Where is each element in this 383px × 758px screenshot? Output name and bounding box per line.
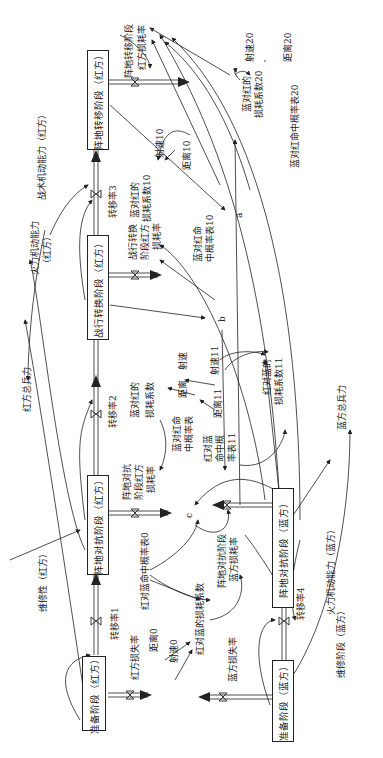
label-convert-loss-2: 阶段红方 [140, 224, 151, 260]
label-rate4: 转移率4 [296, 587, 307, 620]
label-fire-mobility-red-1: 火力机动能力 [30, 221, 41, 275]
label-coef-red-blue0: 红对蓝的损耗系数 [195, 583, 206, 655]
label-hit-red-blue11-2: 命中概 [215, 435, 226, 462]
label-speed: 射速 [178, 352, 189, 370]
label-confront-blue-loss-1: 阵地对抗阶段 [217, 534, 228, 588]
label-dist0: 距离0 [149, 628, 160, 652]
label-blue-total: 蓝方总兵力 [337, 385, 348, 430]
label-confront-red-loss-3: 损耗率 [146, 466, 157, 493]
label-maint-blue: 维修阶段（蓝方） [336, 606, 347, 678]
label-convert-loss-3: 损耗率 [152, 223, 163, 250]
label-coef-blue-red-2: 损耗系数 [145, 382, 156, 418]
stock-blue-confront[interactable]: 阵地对抗阶段（蓝方） [272, 488, 294, 608]
label-hit-blue-red10-2: 中概率表10 [205, 215, 216, 262]
label-hit-blue-red20: 蓝对红命中概率表20 [290, 85, 301, 168]
label-hit-red-blue0: 红对蓝命中概率表0 [140, 532, 151, 610]
label-rate3: 转移率3 [108, 185, 119, 218]
label-confront-red-loss-1: 阵地对抗 [122, 464, 133, 500]
label-hit-blue-red10-1: 蓝对红命 [193, 226, 204, 262]
label-hit-red-blue11-1: 红对蓝 [203, 435, 214, 462]
label-coef-blue-red20-2: 损耗系数20 [254, 71, 265, 118]
label-coef-blue-red-1: 蓝对红的 [130, 382, 141, 418]
label-hit-blue-red-2: 中概率表 [184, 416, 195, 452]
label-dist: 距离 [178, 380, 189, 398]
label-speed10: 射速10 [155, 129, 166, 158]
label-confront-blue-loss-2: 蓝方损耗率 [229, 537, 240, 582]
label-hit-red-blue11-3: 率表11 [227, 433, 238, 462]
label-coef-blue-red10-2: 损耗系数10 [142, 175, 153, 222]
label-convert-loss-1: 战行转换 [128, 224, 139, 260]
label-tactic-mobility-red: 战术机动能力（红方） [37, 110, 48, 200]
stock-red-confront[interactable]: 阵地对抗阶段（红方） [87, 475, 109, 575]
stock-red-prep[interactable]: 准备阶段（红方） [82, 656, 106, 731]
label-coef-blue-red20-1: 蓝对红的 [242, 76, 253, 112]
label-fire-mobility-red-2: （红方） [42, 232, 53, 268]
label-c: c [184, 513, 195, 518]
stock-red-convert[interactable]: 战行转换阶段（红方） [87, 235, 109, 340]
label-fire-mobility-blue: 火力机动能力（蓝方） [326, 525, 337, 615]
label-a: a [234, 213, 245, 218]
label-coef-red-blue11-1: 红对蓝的 [262, 359, 273, 395]
stock-blue-prep[interactable]: 准备阶段（蓝方） [272, 660, 294, 742]
label-rate2: 转移率2 [108, 395, 119, 428]
label-speed20: 射速20 [245, 33, 256, 62]
label-speed0: 射速0 [169, 639, 180, 663]
label-red-loss: 红方损失率 [130, 635, 141, 680]
label-confront-red-loss-2: 阶段红方 [134, 464, 145, 500]
label-hit-blue-red-1: 蓝对红命 [172, 416, 183, 452]
label-dist11: 距离11 [213, 389, 224, 418]
label-dist20: 距离20 [283, 33, 294, 62]
label-rate1: 转移率1 [110, 607, 121, 640]
label-speed11: 射速11 [210, 346, 221, 375]
label-dist10: 距离10 [182, 141, 193, 170]
label-transfer-loss-2: 红方损耗率 [137, 25, 148, 70]
label-red-total: 红方总兵力 [22, 367, 33, 412]
label-b: b [217, 316, 228, 322]
label-transfer-loss-1: 阵地转移阶段 [124, 24, 135, 78]
label-coef-blue-red10-1: 蓝对红的 [130, 182, 141, 218]
diagram-canvas [0, 0, 383, 758]
stock-red-transfer[interactable]: 阵地转移阶段（红方） [87, 50, 109, 150]
label-maint-red: 维修性（红方） [38, 549, 49, 612]
label-coef-red-blue11-2: 损耗系数11 [274, 358, 285, 405]
label-blue-loss: 蓝方损失率 [228, 637, 239, 682]
